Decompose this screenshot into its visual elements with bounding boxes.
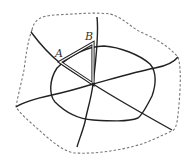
center-point — [91, 82, 94, 85]
line-w-e — [16, 57, 178, 107]
label-a: A — [54, 47, 63, 60]
diagram-canvas: A B — [0, 0, 194, 164]
label-b: B — [84, 30, 93, 43]
